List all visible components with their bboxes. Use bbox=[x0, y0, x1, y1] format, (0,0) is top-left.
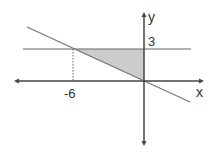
y-axis-bottom-arrow-icon bbox=[142, 141, 147, 146]
y-axis-top-arrow-icon bbox=[142, 12, 147, 17]
y-tick-label-3: 3 bbox=[148, 34, 155, 49]
x-axis-right-arrow-icon bbox=[199, 79, 204, 84]
y-axis-label: y bbox=[148, 9, 155, 25]
x-tick-label-neg6: -6 bbox=[64, 86, 76, 101]
sloped-line bbox=[27, 27, 190, 102]
x-axis-left-arrow-icon bbox=[14, 79, 19, 84]
x-axis-label: x bbox=[196, 84, 203, 100]
coordinate-plane: y x 3 -6 bbox=[0, 0, 209, 152]
